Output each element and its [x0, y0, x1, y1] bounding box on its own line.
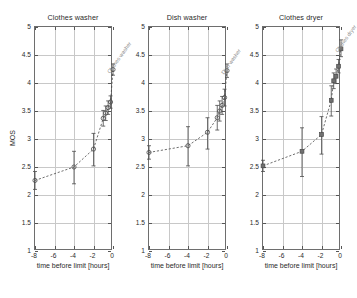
y-tick-label: 2: [126, 191, 145, 198]
data-plot: [35, 27, 113, 251]
y-tick-label: 2.5: [10, 163, 31, 170]
x-tick-mark: [113, 246, 114, 249]
y-tick-label: 4.5: [10, 51, 31, 58]
x-tick-label: -4: [70, 252, 76, 259]
data-point: [300, 128, 304, 177]
x-tick-mark: [227, 27, 228, 30]
y-tick-label: 3.5: [126, 107, 145, 114]
x-tick-label: -4: [184, 252, 190, 259]
data-point: [320, 117, 324, 155]
x-axis-title: time before limit [hours]: [265, 262, 338, 269]
y-axis-title: MOS: [9, 130, 16, 146]
y-tick-label: 5: [10, 23, 31, 30]
marker-square: [337, 64, 341, 68]
x-tick-label: -8: [259, 252, 265, 259]
marker-square: [334, 74, 338, 78]
y-tick-label: 3: [240, 135, 259, 142]
marker-square: [329, 98, 333, 102]
x-axis-title: time before limit [hours]: [37, 262, 110, 269]
y-tick-label: 2.5: [126, 163, 145, 170]
x-tick-label: -4: [298, 252, 304, 259]
x-tick-label: -2: [204, 252, 210, 259]
y-tick-label: 4: [10, 79, 31, 86]
x-tick-label: 0: [338, 252, 342, 259]
x-tick-mark: [341, 27, 342, 30]
x-axis-title: time before limit [hours]: [151, 262, 224, 269]
y-tick-label: 5: [126, 23, 145, 30]
panel-title: Clothes dryer: [262, 13, 340, 22]
y-tick-label: 1: [10, 247, 31, 254]
data-point: [106, 101, 110, 114]
data-point: [205, 118, 209, 149]
x-tick-mark: [227, 246, 228, 249]
x-tick-label: -8: [31, 252, 37, 259]
panel-title: Clothes washer: [34, 13, 112, 22]
y-tick-label: 1: [126, 247, 145, 254]
marker-square: [332, 79, 336, 83]
y-tick-label: 3: [126, 135, 145, 142]
x-tick-mark: [113, 27, 114, 30]
y-tick-label: 1: [240, 247, 259, 254]
marker-square: [320, 133, 324, 137]
marker-square: [300, 149, 304, 153]
data-plot: [149, 27, 227, 251]
y-tick-label: 1.5: [126, 219, 145, 226]
x-tick-label: 0: [224, 252, 228, 259]
x-tick-label: -6: [51, 252, 57, 259]
y-tick-label: 3.5: [10, 107, 31, 114]
data-point: [72, 151, 76, 183]
y-tick-label: 4: [240, 79, 259, 86]
data-plot: [263, 27, 341, 251]
x-tick-label: -6: [279, 252, 285, 259]
y-tick-label: 1.5: [10, 219, 31, 226]
x-tick-label: -2: [90, 252, 96, 259]
data-point: [91, 133, 95, 165]
data-point: [261, 160, 265, 171]
data-point: [33, 171, 37, 189]
y-tick-label: 4.5: [240, 51, 259, 58]
x-tick-label: -6: [165, 252, 171, 259]
y-tick-label: 4: [126, 79, 145, 86]
panel-title: Dish washer: [148, 13, 226, 22]
axes-frame: [34, 26, 112, 250]
x-tick-label: -2: [318, 252, 324, 259]
y-tick-label: 5: [240, 23, 259, 30]
y-tick-label: 4.5: [126, 51, 145, 58]
y-tick-label: 3.5: [240, 107, 259, 114]
axes-frame: [148, 26, 226, 250]
marker-square: [261, 164, 265, 168]
y-tick-label: 2: [10, 191, 31, 198]
x-tick-label: -8: [145, 252, 151, 259]
y-tick-label: 2.5: [240, 163, 259, 170]
x-tick-mark: [341, 246, 342, 249]
x-tick-label: 0: [110, 252, 114, 259]
axes-frame: [262, 26, 340, 250]
y-tick-label: 1.5: [240, 219, 259, 226]
y-tick-label: 2: [240, 191, 259, 198]
